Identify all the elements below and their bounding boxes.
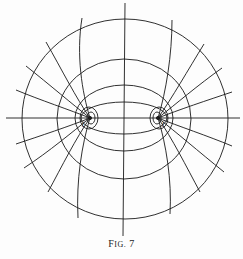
focus-label-left: f [82,120,84,128]
caption-number: 7 [129,238,135,249]
focus-right-dot [156,116,159,119]
focus-label-right: f [162,120,164,128]
focus-left-dot [88,116,91,119]
figure-caption: FIG. 7 [0,238,243,249]
caption-smallcaps: IG. [114,240,126,249]
vertical-axis [123,3,125,236]
figure: f f FIG. 7 [0,0,243,259]
confocal-grid-diagram [0,0,243,259]
